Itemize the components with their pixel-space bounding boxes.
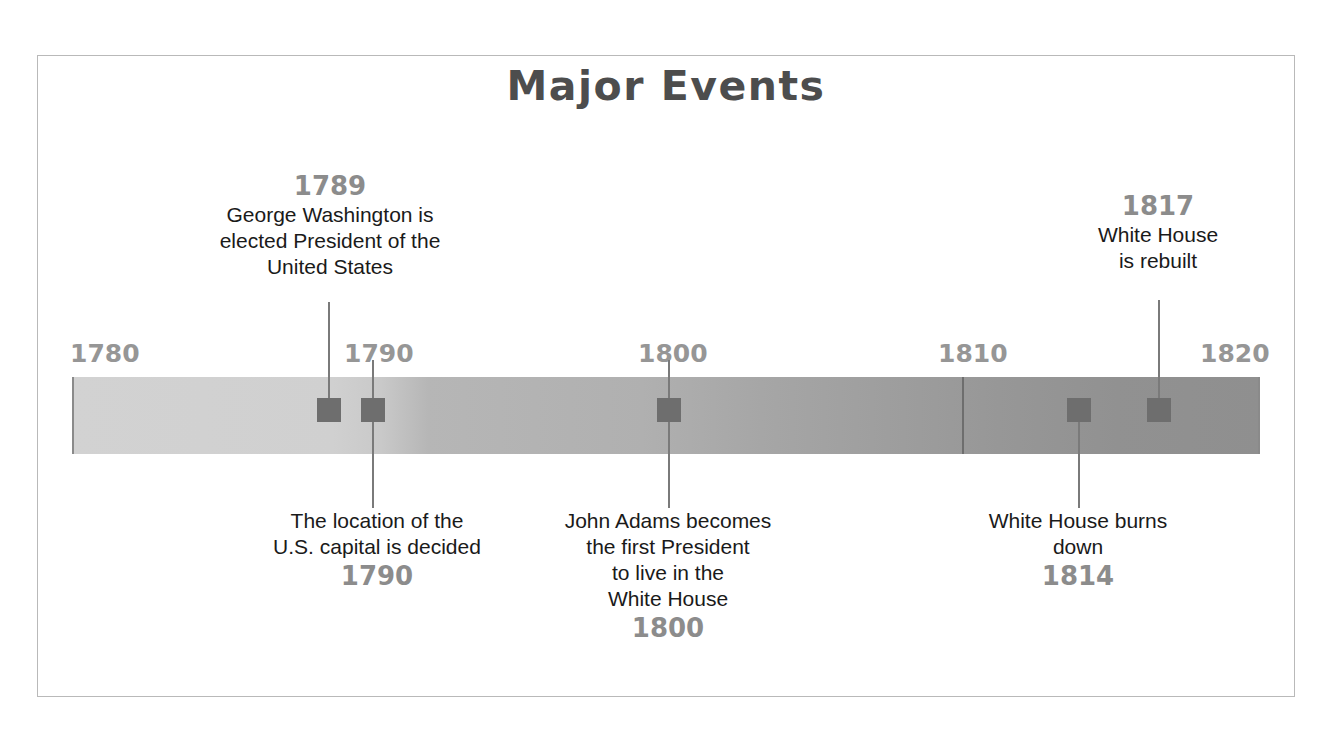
event-marker-1800[interactable]: [657, 398, 681, 422]
event-callout-1790: The location of the U.S. capital is deci…: [232, 508, 522, 592]
connector-1789: [328, 302, 330, 402]
page-title: Major Events: [0, 62, 1332, 110]
axis-tick-1810: [962, 377, 964, 454]
event-year-1789: 1789: [180, 170, 480, 202]
event-text-1814: White House burns down: [938, 508, 1218, 560]
connector-1800: [668, 360, 670, 508]
connector-1790: [372, 360, 374, 508]
axis-tick-1820: [1258, 377, 1260, 454]
event-callout-1817: 1817 White House is rebuilt: [1038, 190, 1278, 274]
event-marker-1814[interactable]: [1067, 398, 1091, 422]
connector-1814: [1078, 412, 1080, 508]
event-marker-1817[interactable]: [1147, 398, 1171, 422]
event-year-1790: 1790: [232, 560, 522, 592]
timeline-figure: Major Events 1780 1790 1800 1810 1820 17…: [0, 0, 1332, 747]
event-text-1800: John Adams becomes the first President t…: [523, 508, 813, 612]
event-text-1790: The location of the U.S. capital is deci…: [232, 508, 522, 560]
event-marker-1789[interactable]: [317, 398, 341, 422]
event-marker-1790[interactable]: [361, 398, 385, 422]
event-callout-1789: 1789 George Washington is elected Presid…: [180, 170, 480, 280]
event-callout-1800: John Adams becomes the first President t…: [523, 508, 813, 644]
event-text-1817: White House is rebuilt: [1038, 222, 1278, 274]
axis-label-1790: 1790: [344, 339, 414, 368]
axis-label-1800: 1800: [638, 339, 708, 368]
axis-label-1820: 1820: [1200, 339, 1270, 368]
event-callout-1814: White House burns down 1814: [938, 508, 1218, 592]
event-year-1817: 1817: [1038, 190, 1278, 222]
axis-tick-1780: [72, 377, 74, 454]
axis-label-1780: 1780: [70, 339, 140, 368]
axis-label-1810: 1810: [938, 339, 1008, 368]
event-year-1814: 1814: [938, 560, 1218, 592]
event-text-1789: George Washington is elected President o…: [180, 202, 480, 280]
connector-1817: [1158, 300, 1160, 402]
event-year-1800: 1800: [523, 612, 813, 644]
